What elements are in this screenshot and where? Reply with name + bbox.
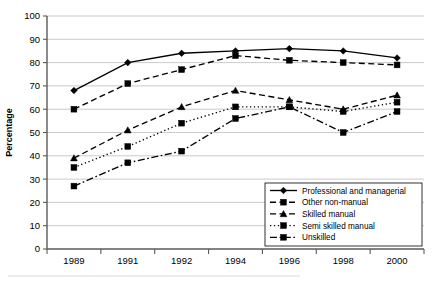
chart-legend: Professional and managerialOther non-man… (265, 183, 422, 246)
data-point-marker (71, 87, 78, 94)
x-tick-label: 1996 (279, 255, 300, 266)
data-point-marker (281, 223, 287, 229)
data-point-marker (394, 92, 401, 98)
data-point-marker (340, 130, 346, 136)
data-point-marker (281, 199, 287, 205)
data-point-marker (71, 106, 77, 112)
y-tick-label: 50 (29, 127, 40, 138)
data-point-marker (233, 53, 239, 59)
y-tick-label: 90 (29, 34, 40, 45)
data-point-marker (233, 104, 239, 110)
y-tick-label: 40 (29, 150, 40, 161)
y-axis-title: Percentage (4, 108, 14, 157)
data-point-marker (394, 109, 400, 115)
series-2 (71, 87, 401, 161)
legend-label: Semi skilled manual (302, 222, 375, 231)
x-tick-label: 1992 (171, 255, 192, 266)
data-point-marker (394, 62, 400, 68)
legend-label: Other non-manual (302, 198, 368, 207)
line-chart: 0102030405060708090100 19891991199219941… (0, 0, 434, 281)
y-axis-title-text: Percentage (4, 108, 14, 157)
x-tick-label: 2000 (387, 255, 408, 266)
x-tick-label: 1989 (63, 255, 84, 266)
y-tick-label: 60 (29, 104, 40, 115)
x-tick-label: 1998 (333, 255, 354, 266)
data-point-marker (340, 109, 346, 115)
y-tick-label: 30 (29, 174, 40, 185)
y-tick-label: 10 (29, 220, 40, 231)
data-point-marker (125, 160, 131, 166)
data-point-marker (286, 45, 293, 52)
y-tick-label: 80 (29, 57, 40, 68)
data-point-marker (179, 148, 185, 154)
y-tick-label: 20 (29, 197, 40, 208)
data-point-marker (178, 103, 185, 109)
x-tick-label: 1994 (225, 255, 246, 266)
y-tick-label: 100 (24, 10, 40, 21)
data-point-marker (340, 48, 347, 55)
data-point-marker (125, 81, 131, 87)
legend-label: Unskilled (302, 233, 336, 242)
y-tick-label: 70 (29, 80, 40, 91)
series-1 (71, 53, 400, 112)
series-4 (71, 104, 400, 189)
data-point-marker (232, 87, 239, 93)
series-line (74, 56, 397, 110)
data-point-marker (394, 55, 401, 62)
legend-label: Skilled manual (302, 210, 355, 219)
x-tick-label: 1991 (117, 255, 138, 266)
data-point-marker (71, 165, 77, 171)
data-point-marker (394, 99, 400, 105)
data-point-marker (71, 183, 77, 189)
data-point-marker (179, 120, 185, 126)
y-axis-tick-labels: 0102030405060708090100 (24, 10, 40, 254)
series-line (74, 102, 397, 167)
data-point-marker (178, 50, 185, 57)
data-point-marker (286, 57, 292, 63)
series-line (74, 91, 397, 159)
data-point-marker (340, 60, 346, 66)
data-point-marker (125, 144, 131, 150)
legend-label: Professional and managerial (302, 187, 406, 196)
chart-container: 0102030405060708090100 19891991199219941… (0, 0, 434, 281)
y-tick-label: 0 (35, 243, 40, 254)
x-axis-tick-labels: 1989199119921994199619982000 (63, 255, 407, 266)
data-point-marker (281, 234, 287, 240)
data-point-marker (179, 67, 185, 73)
series-3 (71, 99, 400, 170)
data-point-marker (286, 104, 292, 110)
data-series-group (71, 45, 401, 189)
data-point-marker (124, 59, 131, 66)
data-point-marker (233, 116, 239, 122)
data-point-marker (286, 96, 293, 102)
